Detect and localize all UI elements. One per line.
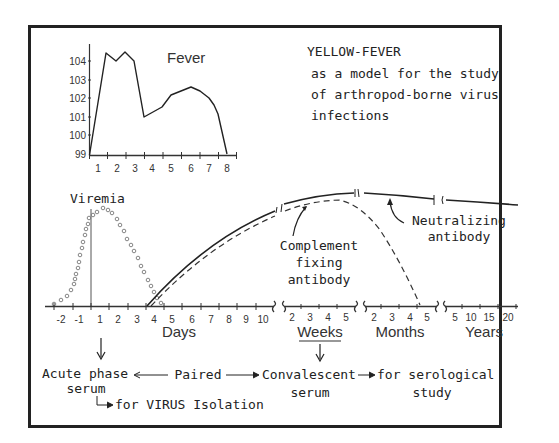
complement-pointer-arrow [293,207,306,236]
right-arrow-icon [369,372,375,378]
fever-y-tick: 104 [69,56,86,67]
neutralizing-label-1: Neutralizing [412,213,506,228]
month-tick: 3 [389,312,395,323]
week-tick: 5 [343,312,349,323]
year-tick: 15 [483,312,495,323]
timeline [45,301,518,312]
fever-y-tick: 103 [69,75,86,86]
day-tick: -1 [75,314,84,325]
day-tick: 8 [226,314,232,325]
right-arrow-icon [107,402,113,408]
weeks-label: Weeks [297,323,343,340]
yellow-fever-diagram: 104 103 102 101 100 99 1 2 3 4 5 6 7 8 F… [0,0,559,443]
fever-y-tick: 100 [69,130,86,141]
day-tick: 9 [243,314,249,325]
title-line-3: of arthropod-borne virus [311,87,499,102]
weeks-ticks: 2 3 4 5 [289,312,349,323]
fever-title: Fever [167,49,205,66]
neutralizing-label-2: antibody [428,229,491,244]
day-tick: 7 [208,314,214,325]
week-tick: 4 [325,312,331,323]
acute-phase-label: Acute phase [42,366,128,381]
fever-y-tick: 102 [69,93,86,104]
convalescent-serum-label: serum [290,385,329,400]
fever-y-tick: 101 [69,112,86,123]
fever-x-tick: 3 [132,163,138,174]
fever-x-tick: 2 [114,163,120,174]
study-label: study [412,385,451,400]
fever-x-tick: 8 [224,163,230,174]
day-tick: 10 [257,314,269,325]
acute-serum-label: serum [66,381,105,396]
years-ticks: 5 10 15 20 [452,312,514,323]
day-tick: 1 [97,314,103,325]
convalescent-label: Convalescent [262,367,356,382]
title-line-1: YELLOW-FEVER [307,44,401,59]
week-tick: 2 [289,312,295,323]
months-label: Months [375,323,424,340]
serum-flow: Acute phase serum Paired Convalescent se… [42,338,494,412]
year-tick: 20 [502,312,514,323]
year-tick: 5 [452,312,458,323]
title-block: YELLOW-FEVER as a model for the study of… [307,44,499,123]
fever-x-tick: 1 [95,163,101,174]
year-tick: 10 [465,312,477,323]
viremia-label: Viremia [70,191,125,206]
paired-label: Paired [175,367,222,382]
fever-x-tick: 5 [168,163,174,174]
antibody-curves: Complement fixing antibody Neutralizing … [147,189,518,306]
month-tick: 4 [407,312,413,323]
neutralizing-antibody-curve [364,193,434,199]
fever-x-tick: 7 [206,163,212,174]
complement-label-1: Complement [280,238,358,253]
right-arrow-icon [253,372,259,378]
day-tick: -2 [57,314,66,325]
arrow-head-icon [387,198,393,205]
fever-line [90,52,228,155]
day-tick: 2 [115,314,121,325]
title-line-2: as a model for the study [311,66,499,81]
month-tick: 5 [424,312,430,323]
fever-chart: 104 103 102 101 100 99 1 2 3 4 5 6 7 8 F… [69,44,237,174]
months-ticks: 2 3 4 5 [371,312,430,323]
fever-x-tick: 6 [188,163,194,174]
days-label: Days [162,323,196,340]
day-tick: 4 [151,314,157,325]
fever-x-tick: 4 [149,163,155,174]
neutralizing-antibody-curve [446,200,518,205]
years-label: Years [465,323,503,340]
complement-label-3: antibody [288,272,351,287]
neutralizing-pointer-arrow [390,202,404,223]
month-tick: 2 [371,312,377,323]
day-tick: 3 [134,314,140,325]
fever-y-tick: 99 [75,149,87,160]
virus-isolation-label: for VIRUS Isolation [115,397,264,412]
week-tick: 3 [307,312,313,323]
viremia-curve: Viremia [52,191,163,306]
serological-label: for serological [377,367,494,382]
complement-antibody-curve [151,216,275,306]
title-line-4: infections [311,108,389,123]
complement-label-2: fixing [296,255,343,270]
